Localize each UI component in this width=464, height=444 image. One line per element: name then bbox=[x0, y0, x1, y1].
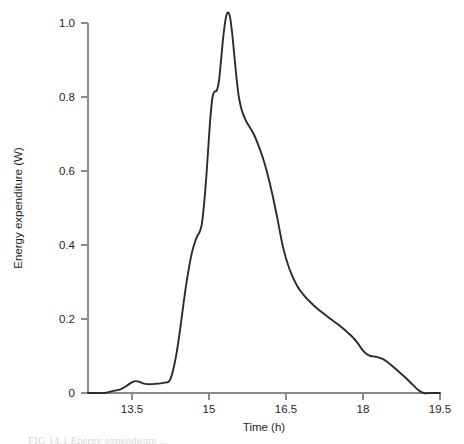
y-axis: 1.0 0.8 0.6 0.4 0.2 0 Energy expenditure… bbox=[12, 17, 88, 399]
y-tick-label: 0.2 bbox=[59, 313, 75, 325]
x-tick-label: 13.5 bbox=[121, 403, 143, 415]
line-chart: 1.0 0.8 0.6 0.4 0.2 0 Energy expenditure… bbox=[0, 0, 464, 444]
figure-caption: FIG 14.1 Energy expenditure ... bbox=[28, 434, 436, 444]
y-tick-label: 1.0 bbox=[59, 17, 75, 29]
energy-expenditure-curve bbox=[88, 13, 440, 394]
figure-panel: 1.0 0.8 0.6 0.4 0.2 0 Energy expenditure… bbox=[0, 0, 464, 444]
x-tick-label: 15 bbox=[203, 403, 216, 415]
y-tick-label: 0.4 bbox=[59, 239, 76, 251]
y-axis-ticks bbox=[81, 23, 88, 393]
y-tick-label: 0 bbox=[69, 387, 75, 399]
x-tick-label: 18 bbox=[357, 403, 370, 415]
x-axis-ticks bbox=[132, 393, 440, 400]
y-axis-title: Energy expenditure (W) bbox=[12, 147, 24, 269]
y-axis-tick-labels: 1.0 0.8 0.6 0.4 0.2 0 bbox=[59, 17, 76, 399]
x-axis-tick-labels: 13.5 15 16.5 18 19.5 bbox=[121, 403, 451, 415]
y-tick-label: 0.6 bbox=[59, 165, 75, 177]
x-axis: 13.5 15 16.5 18 19.5 Time (h) bbox=[88, 393, 451, 433]
y-tick-label: 0.8 bbox=[59, 91, 75, 103]
x-axis-title: Time (h) bbox=[243, 421, 286, 433]
x-tick-label: 19.5 bbox=[429, 403, 451, 415]
x-tick-label: 16.5 bbox=[275, 403, 297, 415]
